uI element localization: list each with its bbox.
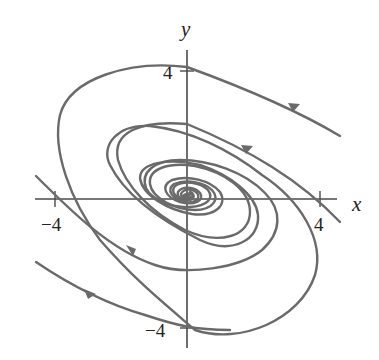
phase-portrait: x y −4 4 4 −4 <box>0 0 379 360</box>
x-tick-label-pos4: 4 <box>314 214 324 235</box>
x-axis-label: x <box>351 192 362 216</box>
y-tick-label-neg4: −4 <box>145 320 166 341</box>
y-axis-label: y <box>179 17 191 41</box>
trajectory-left-lower <box>36 262 230 330</box>
arrow-left-lower <box>84 289 96 299</box>
x-tick-label-neg4: −4 <box>41 214 62 235</box>
